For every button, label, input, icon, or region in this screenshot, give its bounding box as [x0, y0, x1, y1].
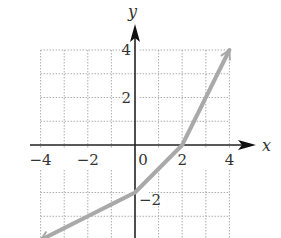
- y-tick-label: −2: [139, 191, 161, 209]
- y-tick-label: 2: [121, 89, 131, 107]
- x-tick-label: −4: [30, 151, 52, 169]
- x-tick-label: 2: [177, 151, 187, 169]
- x-tick-label: 4: [225, 151, 235, 169]
- x-axis-label: x: [262, 136, 271, 155]
- y-tick-label: 4: [121, 41, 131, 59]
- graph: −4−202442−2 x y: [0, 0, 281, 238]
- grid-lines: [15, 40, 245, 238]
- y-axis-label: y: [127, 2, 138, 21]
- x-tick-label: −2: [77, 151, 99, 169]
- x-tick-label: 0: [138, 151, 148, 169]
